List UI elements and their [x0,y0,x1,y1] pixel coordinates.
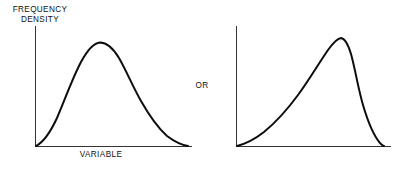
y-axis-label: FREQUENCY DENSITY [3,5,77,25]
skewed-distribution-plot [199,0,398,170]
chart-panel-symmetric: FREQUENCY DENSITY VARIABLE [0,0,199,170]
frequency-density-curve [237,38,384,146]
x-axis-label: VARIABLE [55,150,147,159]
frequency-density-curve [36,43,188,147]
symmetric-distribution-plot [0,0,199,170]
chart-panel-skewed: FREQUENCY DENSITY VARIABLE [199,0,398,170]
distribution-comparison-figure: FREQUENCY DENSITY VARIABLE OR FREQUENCY … [0,0,398,170]
